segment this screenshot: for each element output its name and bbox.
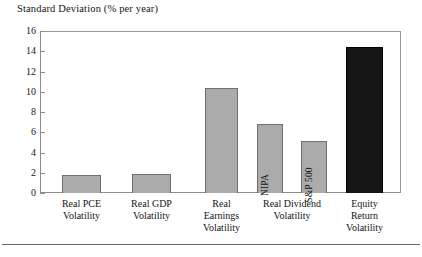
y-axis-tick [40,112,45,113]
y-axis-tick [40,153,45,154]
y-axis-tick-label-text: 2 [2,168,36,178]
y-axis-tick [40,173,45,174]
bar: NIPA [257,124,283,193]
bar-inner-label: NIPA [260,174,270,196]
bar [205,88,238,193]
y-axis-tick-label: 12 [0,67,36,77]
bar [132,174,171,193]
y-axis-tick-label-text: 6 [2,127,36,137]
y-axis-tick-label: 6 [0,127,36,137]
x-axis-category-label-line: Return [324,210,406,222]
y-axis-tick-label-text: 16 [2,26,36,36]
y-axis-tick-label: 16 [0,26,36,36]
y-axis-tick-label-text: 10 [2,87,36,97]
y-axis-tick-label: 2 [0,168,36,178]
bar [346,47,383,193]
figure-container: Standard Deviation (% per year) 16141210… [0,0,422,257]
x-axis-category-label-line: Volatility [324,222,406,234]
y-axis-tick-label-text: 14 [2,46,36,56]
y-axis-tick-label-text: 8 [2,107,36,117]
y-axis-tick [40,132,45,133]
y-axis-tick [40,92,45,93]
x-axis-category-label-line: Equity [324,198,406,210]
x-axis-category-label: EquityReturnVolatility [324,198,406,235]
y-axis-tick-label-text: 4 [2,148,36,158]
y-axis-tick-label-text: 0 [2,188,36,198]
y-axis-tick-label-text: 12 [2,67,36,77]
chart-title: Standard Deviation (% per year) [17,3,158,14]
bar [62,175,101,193]
y-axis-tick [40,193,45,194]
bar: S&P 500 [301,141,327,193]
y-axis-tick-label: 10 [0,87,36,97]
y-axis-tick [40,31,45,32]
y-axis-tick-label: 0 [0,188,36,198]
y-axis-tick-label: 14 [0,46,36,56]
y-axis-tick-label: 4 [0,148,36,158]
bottom-divider [2,244,420,245]
x-axis-category-label-line: Volatility [182,222,262,234]
y-axis-tick-label: 8 [0,107,36,117]
y-axis-tick [40,51,45,52]
y-axis-tick [40,72,45,73]
